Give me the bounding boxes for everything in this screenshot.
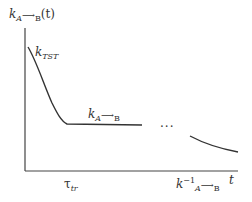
k-inverse-label: k−1A⟶B [176,178,220,190]
rate-curve-late [190,136,238,152]
k-tst-label: kTST [35,46,58,58]
ellipsis: ··· [160,120,174,134]
tau-tr-label: τtr [64,178,78,190]
x-axis-label: t [229,174,234,186]
plot-area [0,0,252,202]
k-ab-label: kA⟶B [88,108,120,120]
rate-constant-diagram: kA⟶B(t) kTST kA⟶B ··· τtr k−1A⟶B t [0,0,252,202]
y-axis-label: kA⟶B(t) [9,8,55,20]
